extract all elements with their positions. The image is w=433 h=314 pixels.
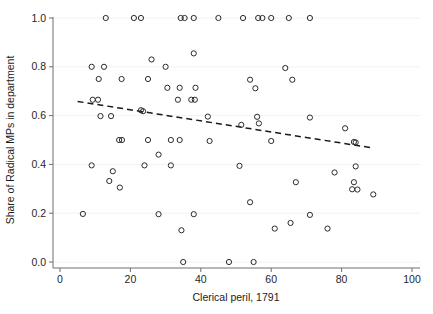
data-point <box>177 137 182 142</box>
data-point <box>145 137 150 142</box>
y-tick-label-0.2: 0.2 <box>31 207 46 219</box>
y-tick-label-0.0: 0.0 <box>31 256 46 268</box>
data-point <box>168 137 173 142</box>
y-tick-label-0.4: 0.4 <box>31 158 46 170</box>
data-point <box>253 86 258 91</box>
x-tick-label-40: 40 <box>195 273 207 285</box>
data-point <box>247 77 252 82</box>
data-point <box>80 211 85 216</box>
data-point <box>343 126 348 131</box>
x-tick-label-60: 60 <box>265 273 277 285</box>
x-tick-label-100: 100 <box>403 273 421 285</box>
data-point <box>165 85 170 90</box>
x-tick-label-80: 80 <box>336 273 348 285</box>
data-point <box>256 121 261 126</box>
data-point <box>193 85 198 90</box>
data-point <box>177 85 182 90</box>
y-tick-label-0.8: 0.8 <box>31 60 46 72</box>
x-tick-label-20: 20 <box>125 273 137 285</box>
data-point <box>325 226 330 231</box>
data-point <box>288 220 293 225</box>
data-point <box>207 138 212 143</box>
y-axis-title: Share of Radical MPs in department <box>4 56 16 225</box>
data-point <box>175 97 180 102</box>
data-point <box>142 163 147 168</box>
y-tick-label-1.0: 1.0 <box>31 12 46 24</box>
data-point <box>293 180 298 185</box>
x-tick-label-0: 0 <box>57 273 63 285</box>
data-point <box>269 138 274 143</box>
data-point <box>371 192 376 197</box>
data-point <box>355 187 360 192</box>
data-point <box>90 97 95 102</box>
scatter-plot-figure: 0.00.20.40.60.81.0020406080100Clerical p… <box>0 0 433 314</box>
data-point <box>290 77 295 82</box>
data-point <box>192 97 197 102</box>
data-point <box>107 178 112 183</box>
data-point <box>145 76 150 81</box>
data-point <box>156 152 161 157</box>
data-point <box>205 114 210 119</box>
data-point <box>350 187 355 192</box>
data-point <box>168 163 173 168</box>
x-axis-title: Clerical peril, 1791 <box>193 291 280 303</box>
data-point <box>179 228 184 233</box>
data-point <box>96 76 101 81</box>
data-point <box>117 185 122 190</box>
data-point <box>272 226 277 231</box>
data-point <box>191 51 196 56</box>
data-point <box>332 170 337 175</box>
data-point <box>255 114 260 119</box>
y-tick-label-0.6: 0.6 <box>31 109 46 121</box>
data-point <box>283 65 288 70</box>
data-point <box>191 212 196 217</box>
data-point <box>149 57 154 62</box>
data-point <box>95 97 100 102</box>
data-point <box>156 212 161 217</box>
chart-canvas: 0.00.20.40.60.81.0020406080100Clerical p… <box>0 0 433 314</box>
data-point <box>351 180 356 185</box>
data-point <box>89 163 94 168</box>
data-point <box>247 200 252 205</box>
data-point <box>119 76 124 81</box>
data-points-group <box>80 15 376 264</box>
data-point <box>110 169 115 174</box>
